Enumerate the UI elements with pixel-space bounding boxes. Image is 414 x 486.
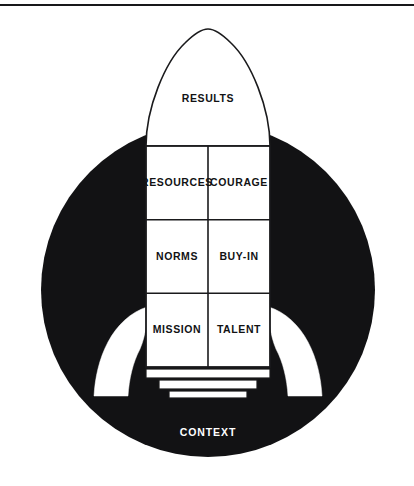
rocket-framework-figure: RESULTS RESOURCES COURAGE NORMS BUY-IN M… (0, 0, 414, 486)
cell-label-mission: MISSION (153, 323, 202, 335)
cell-label-talent: TALENT (217, 323, 261, 335)
cell-label-norms: NORMS (156, 250, 198, 262)
nose-cone (146, 29, 270, 146)
cell-label-buy-in: BUY-IN (219, 250, 258, 262)
top-divider-rule (0, 4, 414, 6)
engine-segment-1 (146, 369, 270, 378)
engine-segment-3 (169, 391, 247, 398)
nose-cone-label: RESULTS (182, 92, 234, 104)
context-label: CONTEXT (180, 426, 236, 438)
engine-segment-2 (159, 380, 257, 389)
cell-label-resources: RESOURCES (141, 176, 213, 188)
cell-label-courage: COURAGE (210, 176, 268, 188)
rocket-diagram-canvas: RESULTS RESOURCES COURAGE NORMS BUY-IN M… (0, 0, 414, 486)
